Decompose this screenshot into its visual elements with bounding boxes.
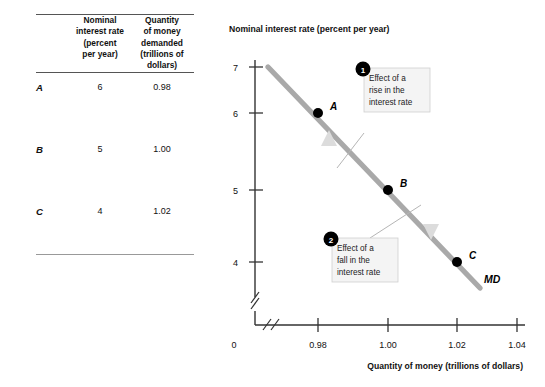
row-interest-rate: 5 [70,135,130,197]
data-point-c-label: C [469,250,477,261]
y-tick-label: 5 [233,186,238,196]
x-tick-label-origin: 0 [231,340,236,350]
callout-2-line: Effect of a [337,244,374,253]
data-table: Nominal interest rate (percent per year)… [36,14,194,255]
header-line: of money [130,26,194,37]
callout-1-line: interest rate [369,98,413,107]
y-tick-label: 7 [233,63,238,73]
callout-1-line: rise in the [369,86,405,95]
data-point-a[interactable] [313,108,323,118]
header-line: Nominal [70,15,130,26]
header-line: dollars) [130,60,194,71]
callout-2-line: fall in the [337,256,370,265]
x-tick-label: 1.04 [508,340,526,350]
data-point-a-label: A [329,101,337,112]
callout-1: Effect of a rise in the interest rate 1 [356,62,431,113]
row-quantity: 1.02 [130,197,194,255]
row-point-label: A [36,72,70,135]
header-line: demanded [130,38,194,49]
x-tick-label: 0.98 [309,340,327,350]
data-table-container: Nominal interest rate (percent per year)… [36,14,194,255]
figure-root: Nominal interest rate (percent per year)… [0,0,545,387]
table-row: B 5 1.00 [36,135,194,197]
x-tick-label: 1.00 [379,340,397,350]
row-quantity: 0.98 [130,72,194,135]
callout-2: Effect of a fall in the interest rate 2 [324,232,399,283]
data-point-c[interactable] [452,257,462,267]
x-tick-label: 1.02 [448,340,466,350]
row-quantity: 1.00 [130,135,194,197]
chart-container: Nominal interest rate (percent per year) [225,0,545,387]
header-line: Quantity [130,15,194,26]
table-body: A 6 0.98 B 5 1.00 C 4 1.02 [36,72,194,254]
callout-2-badge-number: 2 [329,236,334,245]
md-curve-label: MD [484,273,501,285]
row-interest-rate: 4 [70,197,130,255]
callout-2-line: interest rate [337,268,381,277]
table-header-quantity: Quantity of money demanded (trillions of… [130,15,194,73]
header-line: (percent [70,38,130,49]
y-axis-title: Nominal interest rate (percent per year) [229,24,390,34]
data-point-b-label: B [400,178,407,189]
table-header-point [36,15,70,73]
table-row: C 4 1.02 [36,197,194,255]
callout-1-line: Effect of a [369,74,406,83]
data-point-b[interactable] [383,185,393,195]
row-interest-rate: 6 [70,72,130,135]
header-line: per year) [70,49,130,60]
y-tick-label: 6 [233,109,238,119]
callout-1-badge-number: 1 [361,66,366,75]
chart-svg: Nominal interest rate (percent per year) [225,0,545,387]
row-point-label: B [36,135,70,197]
header-line: interest rate [70,26,130,37]
x-axis-title: Quantity of money (trillions of dollars) [367,361,523,371]
header-line: (trillions of [130,49,194,60]
row-point-label: C [36,197,70,255]
y-tick-label: 4 [233,258,238,268]
table-header-row: Nominal interest rate (percent per year)… [36,15,194,73]
table-header: Nominal interest rate (percent per year)… [36,15,194,73]
table-row: A 6 0.98 [36,72,194,135]
table-header-interest-rate: Nominal interest rate (percent per year) [70,15,130,73]
